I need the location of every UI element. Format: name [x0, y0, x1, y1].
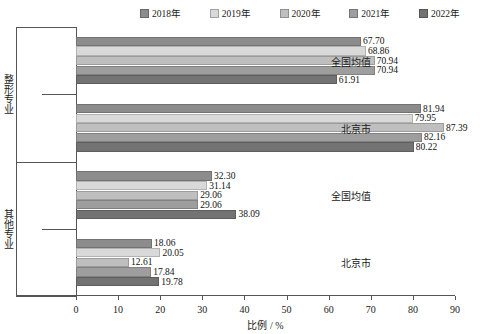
bar-2018年-北京市[interactable]: 81.94: [76, 104, 421, 113]
legend-label: 2020年: [292, 6, 321, 20]
bar-group: 81.9479.9587.3982.1680.22: [76, 104, 455, 152]
bar-2022年-全国均值[interactable]: 38.09: [76, 210, 236, 219]
bar-2020年-全国均值[interactable]: 29.06: [76, 191, 198, 200]
x-axis-tick-label: 0: [74, 304, 79, 315]
bar-2022年-北京市[interactable]: 19.78: [76, 277, 159, 286]
legend-swatch-icon: [349, 9, 358, 18]
bar-value-label: 29.06: [200, 200, 221, 210]
x-axis-tick: [202, 296, 203, 300]
bar-row: 70.94: [76, 56, 455, 66]
bar-2018年-全国均值[interactable]: 32.30: [76, 171, 212, 180]
bar-row: 87.39: [76, 123, 455, 133]
bar-value-label: 70.94: [377, 56, 398, 66]
bar-2020年-全国均值[interactable]: 70.94: [76, 56, 375, 65]
legend-label: 2022年: [431, 6, 460, 20]
legend-swatch-icon: [280, 9, 289, 18]
x-axis-tick-label: 10: [113, 304, 123, 315]
bar-2021年-全国均值[interactable]: 29.06: [76, 200, 198, 209]
x-axis-tick: [371, 296, 372, 300]
x-axis-line: [16, 295, 455, 296]
bar-2019年-全国均值[interactable]: 31.14: [76, 181, 207, 190]
bar-row: 31.14: [76, 181, 455, 191]
x-axis-tick-label: 50: [282, 304, 292, 315]
bar-row: 32.30: [76, 171, 455, 181]
bar-2018年-北京市[interactable]: 18.06: [76, 239, 152, 248]
x-axis-tick: [160, 296, 161, 300]
bar-row: 17.84: [76, 267, 455, 277]
bar-row: 70.94: [76, 65, 455, 75]
legend-item-2022年[interactable]: 2022年: [419, 6, 460, 20]
bar-row: 67.70: [76, 37, 455, 47]
bar-2018年-全国均值[interactable]: 67.70: [76, 37, 361, 46]
category-tick: [16, 27, 76, 28]
x-axis-tick: [287, 296, 288, 300]
legend-item-2021年[interactable]: 2021年: [349, 6, 390, 20]
bar-row: 80.22: [76, 142, 455, 152]
chart-legend: 2018年2019年2020年2021年2022年: [140, 5, 460, 21]
bar-2019年-全国均值[interactable]: 68.86: [76, 46, 366, 55]
x-axis-tick-label: 70: [366, 304, 376, 315]
bar-value-label: 68.86: [368, 46, 389, 56]
bar-value-label: 87.39: [446, 123, 467, 133]
bar-2022年-全国均值[interactable]: 61.91: [76, 75, 337, 84]
x-axis-tick-label: 90: [450, 304, 460, 315]
bar-chart: 2018年2019年2020年2021年2022年 67.7068.8670.9…: [0, 0, 484, 334]
x-axis-title: 比例 / %: [247, 317, 283, 332]
y-axis-category-全国均值: 全国均值: [331, 188, 371, 203]
outer-category-bracket: [16, 162, 17, 297]
bar-row: 12.61: [76, 258, 455, 268]
bar-row: 82.16: [76, 133, 455, 143]
x-axis-tick: [413, 296, 414, 300]
y-axis-category-全国均值: 全国均值: [331, 54, 371, 69]
x-axis-tick: [455, 296, 456, 300]
bar-2021年-北京市[interactable]: 17.84: [76, 267, 151, 276]
y-axis-category-北京市: 北京市: [341, 121, 371, 136]
legend-item-2020年[interactable]: 2020年: [280, 6, 321, 20]
bar-2021年-全国均值[interactable]: 70.94: [76, 66, 375, 75]
bar-value-label: 19.78: [161, 277, 182, 287]
x-axis-tick: [329, 296, 330, 300]
category-tick: [16, 296, 76, 297]
bar-2022年-北京市[interactable]: 80.22: [76, 142, 414, 151]
bar-value-label: 20.05: [162, 248, 183, 258]
bar-row: 20.05: [76, 248, 455, 258]
legend-item-2019年[interactable]: 2019年: [210, 6, 251, 20]
y-axis-outer-category-整形专业: 整形专业: [0, 74, 15, 114]
bar-value-label: 67.70: [363, 36, 384, 46]
y-axis-outer-category-其他专业: 其他专业: [0, 209, 15, 249]
bar-row: 68.86: [76, 46, 455, 56]
bar-value-label: 82.16: [424, 132, 445, 142]
x-axis-tick: [244, 296, 245, 300]
x-axis-tick-label: 80: [408, 304, 418, 315]
legend-item-2018年[interactable]: 2018年: [140, 6, 181, 20]
x-axis-tick: [118, 296, 119, 300]
bar-row: 79.95: [76, 113, 455, 123]
bar-group: 32.3031.1429.0629.0638.09: [76, 171, 455, 219]
bar-row: 29.06: [76, 200, 455, 210]
legend-label: 2018年: [152, 6, 181, 20]
bar-value-label: 38.09: [238, 209, 259, 219]
x-axis-tick-label: 30: [197, 304, 207, 315]
x-axis-tick-label: 60: [324, 304, 334, 315]
bar-row: 19.78: [76, 277, 455, 287]
bar-2020年-北京市[interactable]: 87.39: [76, 123, 444, 132]
bar-value-label: 70.94: [377, 65, 398, 75]
x-axis-tick-label: 40: [239, 304, 249, 315]
legend-label: 2021年: [361, 6, 390, 20]
bar-2019年-北京市[interactable]: 20.05: [76, 248, 160, 257]
bar-value-label: 81.94: [423, 104, 444, 114]
bar-value-label: 18.06: [154, 238, 175, 248]
bar-value-label: 31.14: [209, 181, 230, 191]
bar-value-label: 79.95: [415, 113, 436, 123]
bar-value-label: 61.91: [339, 75, 360, 85]
category-tick: [16, 162, 76, 163]
x-axis-tick: [76, 296, 77, 300]
bar-row: 38.09: [76, 210, 455, 220]
bar-value-label: 12.61: [131, 257, 152, 267]
bar-value-label: 80.22: [416, 142, 437, 152]
bar-2020年-北京市[interactable]: 12.61: [76, 258, 129, 267]
bar-row: 18.06: [76, 238, 455, 248]
bar-row: 61.91: [76, 75, 455, 85]
bar-row: 29.06: [76, 190, 455, 200]
bar-value-label: 17.84: [153, 267, 174, 277]
